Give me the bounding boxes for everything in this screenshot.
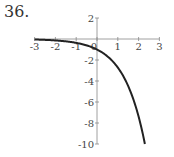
x-tick-label: 2: [135, 41, 141, 52]
x-tick-label: -2: [51, 41, 61, 52]
y-tick-label: 2: [88, 13, 94, 24]
y-tick-label: -4: [84, 76, 94, 87]
function-plot: -3-2-101232-2-4-6-8-10: [0, 0, 174, 157]
y-tick-label: -6: [84, 97, 94, 108]
x-tick-label: -3: [30, 41, 40, 52]
x-tick-label: 1: [115, 41, 121, 52]
y-tick-label: -2: [84, 55, 94, 66]
x-tick-label: 3: [156, 41, 162, 52]
y-tick-label: -8: [84, 118, 94, 129]
y-tick-label: -10: [78, 139, 94, 150]
